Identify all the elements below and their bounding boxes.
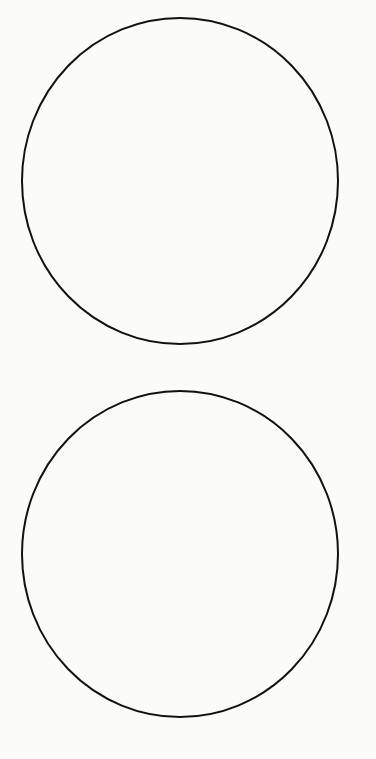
bottom-circle xyxy=(22,391,338,717)
top-circle xyxy=(22,18,338,344)
diagram-page xyxy=(0,0,376,759)
circles-diagram xyxy=(0,0,376,759)
